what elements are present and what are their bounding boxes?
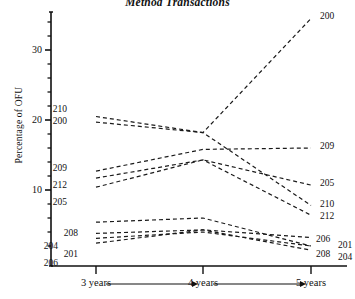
series-line-200 [96, 19, 311, 133]
y-axis [45, 12, 53, 266]
series-lines [96, 19, 311, 251]
series-line-212 [96, 160, 311, 215]
x-axis [51, 266, 347, 274]
chart-root: Method Transactions Percentage of OFU 30… [0, 0, 355, 299]
chart-svg [0, 0, 355, 299]
y-axis-ticks [45, 22, 51, 246]
x-axis-arrows [106, 281, 306, 287]
series-line-210 [96, 117, 311, 206]
series-line-204 [96, 230, 311, 250]
